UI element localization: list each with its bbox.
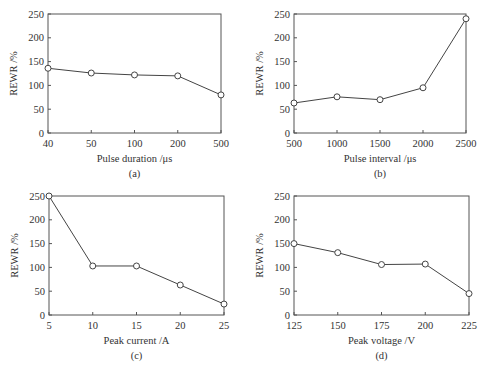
data-point-marker — [177, 282, 183, 288]
data-point-marker — [134, 263, 140, 269]
x-axis-label: Peak current /A — [104, 335, 170, 346]
y-tick-label: 150 — [28, 56, 44, 67]
y-tick-label: 50 — [35, 286, 46, 297]
data-point-marker — [45, 65, 51, 71]
plot-frame — [294, 196, 469, 315]
x-tick-label: 125 — [286, 320, 302, 331]
data-point-marker — [466, 291, 472, 297]
data-point-marker — [90, 263, 96, 269]
plot-frame — [49, 196, 224, 315]
x-tick-label: 225 — [461, 320, 477, 331]
y-tick-label: 50 — [280, 286, 291, 297]
data-point-marker — [132, 72, 138, 78]
y-tick-label: 200 — [29, 214, 45, 225]
chart-panel-c: 050100150200250510152025Peak current /A(… — [9, 191, 229, 363]
series-line — [49, 196, 224, 304]
x-tick-label: 200 — [417, 320, 433, 331]
y-tick-label: 0 — [40, 310, 45, 321]
y-tick-label: 50 — [280, 104, 291, 115]
y-tick-label: 150 — [274, 56, 290, 67]
data-point-marker — [175, 73, 181, 79]
y-tick-label: 100 — [274, 80, 290, 91]
data-point-marker — [221, 301, 227, 307]
x-tick-label: 1000 — [327, 138, 348, 149]
x-tick-label: 100 — [127, 138, 143, 149]
series-line — [294, 19, 466, 103]
x-tick-label: 15 — [131, 320, 142, 331]
figure-canvas: 0501001502002504050100200500Pulse durati… — [0, 0, 484, 371]
chart-panel-b: 0501001502002505001000150020002500Pulse … — [254, 9, 477, 181]
y-tick-label: 0 — [39, 128, 44, 139]
y-tick-label: 50 — [34, 104, 45, 115]
x-tick-label: 2000 — [413, 138, 434, 149]
series-line — [294, 244, 469, 294]
y-axis-label: REWR /% — [254, 233, 265, 278]
y-tick-label: 200 — [274, 32, 290, 43]
x-tick-label: 150 — [330, 320, 346, 331]
x-axis-label: Peak voltage /V — [348, 335, 415, 346]
data-point-marker — [335, 250, 341, 256]
x-tick-label: 5 — [46, 320, 51, 331]
panel-label-d: (d) — [375, 350, 388, 362]
x-tick-label: 500 — [286, 138, 302, 149]
data-point-marker — [291, 100, 297, 106]
x-tick-label: 25 — [219, 320, 230, 331]
x-tick-label: 2500 — [456, 138, 477, 149]
data-point-marker — [218, 92, 224, 98]
chart-panel-a: 0501001502002504050100200500Pulse durati… — [8, 9, 229, 181]
x-tick-label: 50 — [86, 138, 97, 149]
y-tick-label: 0 — [285, 128, 290, 139]
data-point-marker — [88, 70, 94, 76]
y-tick-label: 200 — [274, 214, 290, 225]
x-tick-label: 500 — [213, 138, 229, 149]
x-tick-label: 1500 — [370, 138, 391, 149]
y-axis-label: REWR /% — [8, 51, 19, 96]
y-tick-label: 0 — [285, 310, 290, 321]
y-axis-label: REWR /% — [254, 51, 265, 96]
y-axis-label: REWR /% — [9, 233, 20, 278]
x-tick-label: 10 — [88, 320, 99, 331]
y-tick-label: 100 — [28, 80, 44, 91]
x-tick-label: 200 — [170, 138, 186, 149]
y-tick-label: 100 — [274, 262, 290, 273]
x-axis-label: Pulse interval /μs — [344, 153, 417, 164]
data-point-marker — [463, 16, 469, 22]
y-tick-label: 250 — [28, 9, 44, 20]
y-tick-label: 250 — [274, 191, 290, 202]
data-point-marker — [291, 241, 297, 247]
panel-label-a: (a) — [129, 168, 141, 180]
panel-label-c: (c) — [131, 350, 143, 362]
y-tick-label: 100 — [29, 262, 45, 273]
x-tick-label: 20 — [175, 320, 186, 331]
chart-panel-d: 050100150200250125150175200225Peak volta… — [254, 191, 477, 363]
y-tick-label: 200 — [28, 32, 44, 43]
panel-label-b: (b) — [374, 168, 387, 180]
plot-frame — [294, 14, 466, 133]
y-tick-label: 150 — [274, 238, 290, 249]
data-point-marker — [377, 97, 383, 103]
data-point-marker — [422, 261, 428, 267]
y-tick-label: 150 — [29, 238, 45, 249]
data-point-marker — [420, 85, 426, 91]
data-point-marker — [379, 262, 385, 268]
data-point-marker — [46, 193, 52, 199]
data-point-marker — [334, 94, 340, 100]
x-axis-label: Pulse duration /μs — [97, 153, 173, 164]
x-tick-label: 175 — [374, 320, 390, 331]
x-tick-label: 40 — [43, 138, 54, 149]
y-tick-label: 250 — [274, 9, 290, 20]
y-tick-label: 250 — [29, 191, 45, 202]
